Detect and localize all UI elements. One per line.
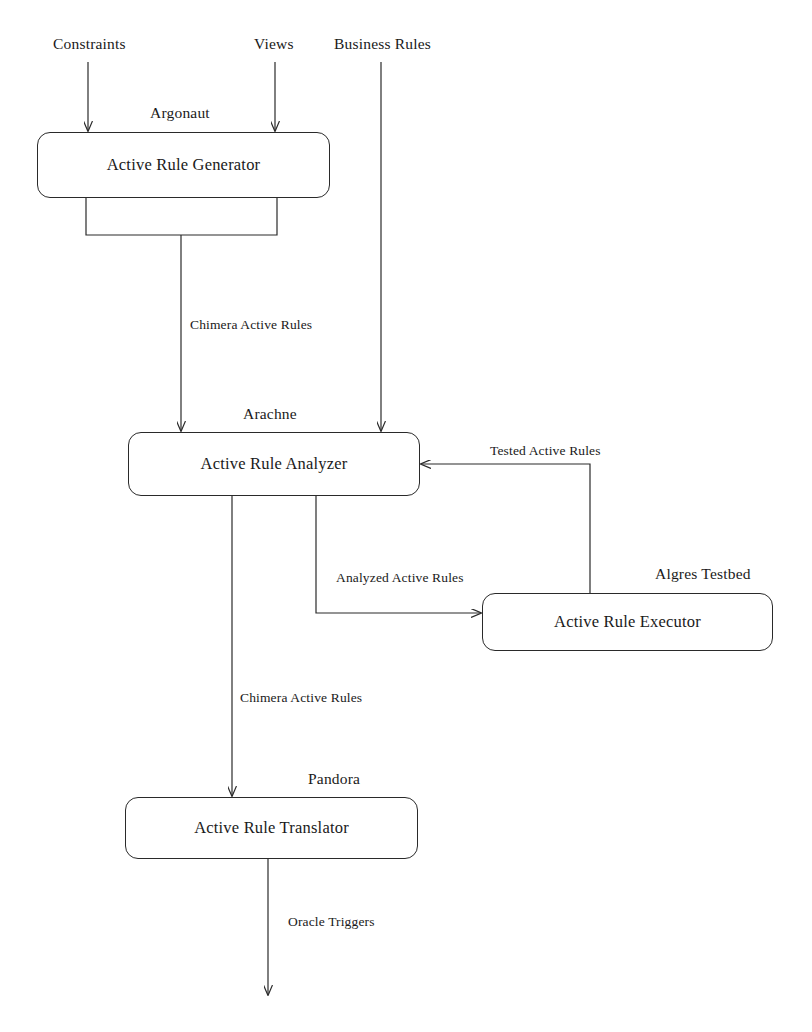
edge-analyzer-to-executor: [316, 496, 481, 613]
node-active-rule-generator[interactable]: Active Rule Generator: [37, 132, 330, 198]
node-active-rule-executor[interactable]: Active Rule Executor: [482, 593, 773, 651]
edge-label-chimera-active-rules-lower: Chimera Active Rules: [240, 690, 362, 706]
node-active-rule-analyzer-label: Active Rule Analyzer: [201, 454, 348, 474]
edge-label-analyzed-active-rules: Analyzed Active Rules: [336, 570, 464, 586]
node-active-rule-translator[interactable]: Active Rule Translator: [125, 797, 418, 859]
diagram-canvas: Constraints Views Business Rules Argonau…: [0, 0, 812, 1032]
node-caption-arachne: Arachne: [243, 405, 297, 423]
edge-label-tested-active-rules: Tested Active Rules: [490, 443, 601, 459]
edge-label-chimera-active-rules-upper: Chimera Active Rules: [190, 317, 312, 333]
node-active-rule-translator-label: Active Rule Translator: [194, 818, 349, 838]
node-active-rule-analyzer[interactable]: Active Rule Analyzer: [128, 432, 420, 496]
edge-generator-bracket: [86, 198, 277, 235]
node-caption-argonaut: Argonaut: [150, 104, 210, 122]
input-label-business-rules: Business Rules: [334, 35, 431, 53]
node-active-rule-executor-label: Active Rule Executor: [554, 612, 701, 632]
node-active-rule-generator-label: Active Rule Generator: [107, 155, 261, 175]
node-caption-algres-testbed: Algres Testbed: [655, 565, 751, 583]
input-label-views: Views: [254, 35, 294, 53]
edge-label-oracle-triggers: Oracle Triggers: [288, 914, 375, 930]
input-label-constraints: Constraints: [53, 35, 126, 53]
node-caption-pandora: Pandora: [308, 770, 360, 788]
